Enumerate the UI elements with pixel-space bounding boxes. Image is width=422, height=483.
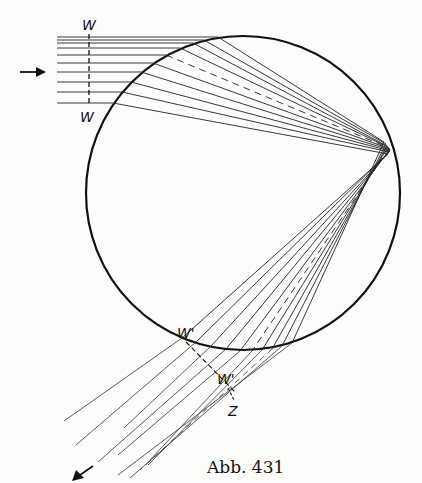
label-w-prime-2: W' <box>217 371 235 387</box>
internal-rays-out <box>182 142 390 351</box>
label-z: Z <box>227 403 238 419</box>
raindrop-reflection-diagram: W W W' W' Z Abb. 431 <box>0 0 422 483</box>
outgoing-arrow-icon <box>72 466 93 481</box>
incoming-rays <box>57 37 218 103</box>
label-w-bottom: W <box>80 109 95 125</box>
drop-circle <box>86 36 400 350</box>
incoming-arrow-icon <box>20 67 46 77</box>
label-w-top: W <box>82 17 97 33</box>
figure-caption: Abb. 431 <box>206 457 284 477</box>
label-w-prime-1: W' <box>177 325 195 341</box>
